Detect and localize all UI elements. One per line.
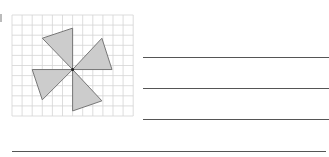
answer-line-1[interactable]	[143, 57, 329, 58]
answer-line-4[interactable]	[12, 151, 326, 152]
center-point	[71, 68, 74, 71]
answer-line-3[interactable]	[143, 119, 329, 120]
answer-line-2[interactable]	[143, 88, 329, 89]
pinwheel-figure	[0, 0, 329, 157]
triangle-top	[42, 28, 72, 69]
pinwheel-shapes	[32, 28, 112, 111]
triangle-right	[73, 38, 112, 69]
